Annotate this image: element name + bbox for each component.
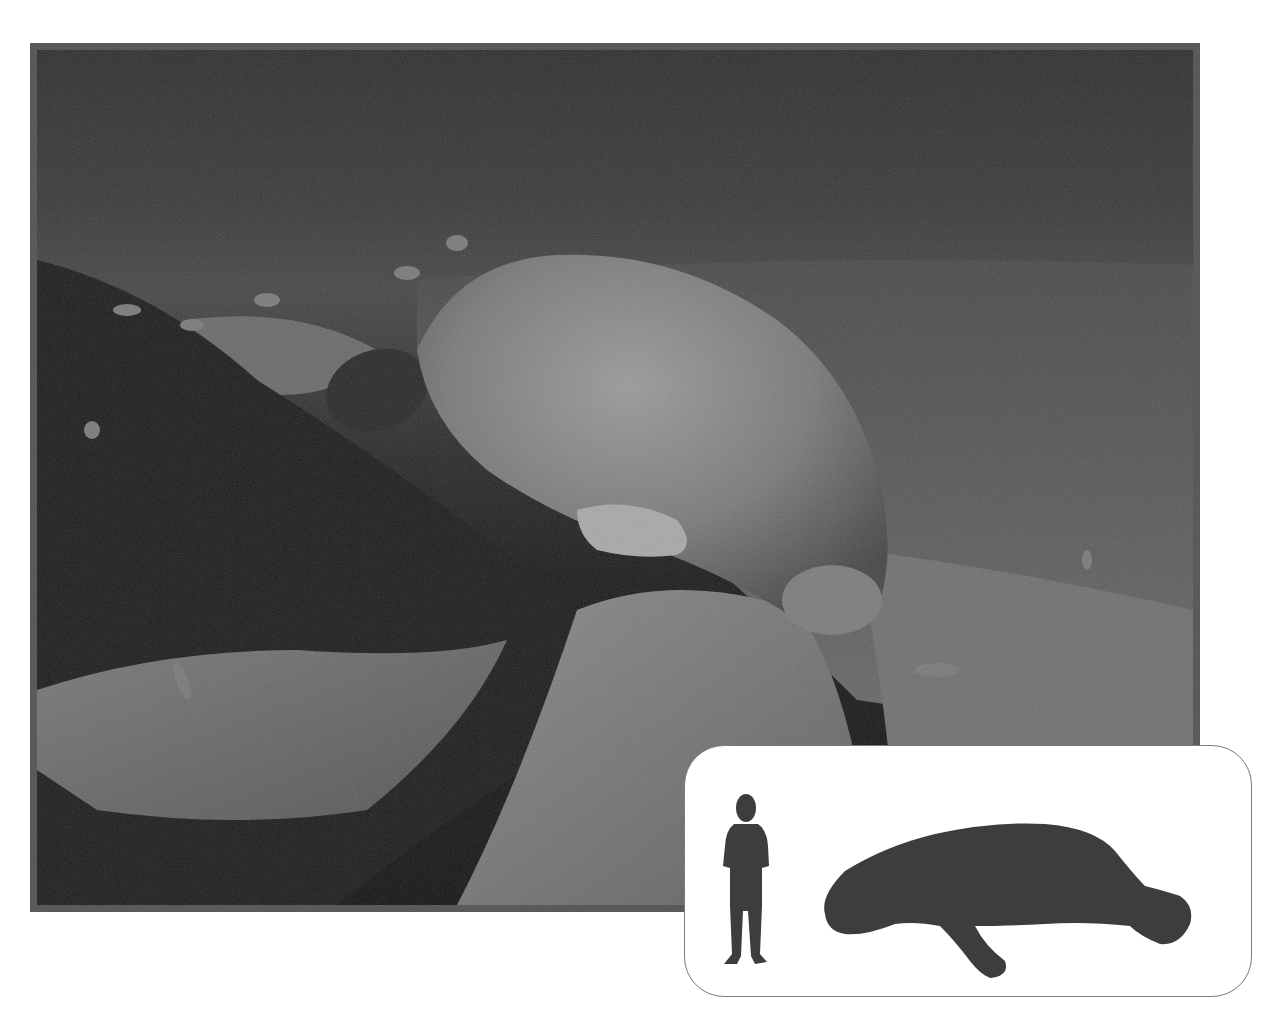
- silhouettes: [685, 746, 1252, 997]
- manatee-silhouette-icon: [824, 823, 1191, 978]
- human-silhouette-icon: [723, 794, 769, 964]
- size-comparison-inset: [684, 745, 1252, 997]
